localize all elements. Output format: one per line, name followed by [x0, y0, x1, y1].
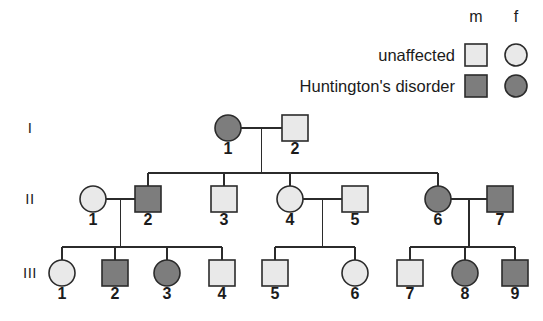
- symbol-male-unaffected: [262, 260, 288, 286]
- symbol-female-unaffected: [277, 186, 303, 212]
- generation-label-III: III: [23, 264, 37, 281]
- symbol-female-unaffected: [80, 186, 106, 212]
- legend-swatch-male-affected: [465, 75, 487, 97]
- individual-II-4[interactable]: 4: [277, 186, 303, 228]
- symbol-female-affected: [425, 186, 451, 212]
- individual-III-1[interactable]: 1: [49, 260, 75, 302]
- individual-number-II-1: 1: [89, 211, 98, 228]
- individual-number-III-1: 1: [58, 285, 67, 302]
- individual-III-5[interactable]: 5: [262, 260, 288, 302]
- symbol-male-unaffected: [282, 115, 308, 141]
- individual-number-II-4: 4: [286, 211, 295, 228]
- generation-label-I: I: [28, 119, 33, 136]
- pedigree-canvas: mfunaffectedHuntington's disorder 121234…: [0, 0, 543, 321]
- symbol-female-affected: [154, 260, 180, 286]
- symbol-male-unaffected: [211, 186, 237, 212]
- individual-III-4[interactable]: 4: [209, 260, 235, 302]
- individual-I-1[interactable]: 1: [215, 115, 241, 157]
- symbol-female-affected: [215, 115, 241, 141]
- individual-number-III-3: 3: [163, 285, 172, 302]
- individual-II-2[interactable]: 2: [135, 186, 161, 228]
- legend-header-male: m: [469, 8, 482, 25]
- symbol-female-unaffected: [342, 260, 368, 286]
- individual-number-III-9: 9: [511, 285, 520, 302]
- individual-II-7[interactable]: 7: [487, 186, 513, 228]
- individual-II-1[interactable]: 1: [80, 186, 106, 228]
- individual-number-I-1: 1: [224, 140, 233, 157]
- individual-number-III-7: 7: [406, 285, 415, 302]
- legend-label-affected: Huntington's disorder: [300, 77, 456, 95]
- individual-number-II-6: 6: [434, 211, 443, 228]
- pedigree-figure: mfunaffectedHuntington's disorder 121234…: [0, 0, 543, 321]
- legend-header-female: f: [514, 8, 519, 25]
- individual-number-II-7: 7: [496, 211, 505, 228]
- individual-II-3[interactable]: 3: [211, 186, 237, 228]
- individual-number-III-2: 2: [111, 285, 120, 302]
- individual-III-9[interactable]: 9: [502, 260, 528, 302]
- individual-II-6[interactable]: 6: [425, 186, 451, 228]
- individual-number-II-2: 2: [144, 211, 153, 228]
- generation-label-II: II: [25, 190, 34, 207]
- individual-III-8[interactable]: 8: [452, 260, 478, 302]
- symbol-female-unaffected: [49, 260, 75, 286]
- individual-number-III-8: 8: [461, 285, 470, 302]
- individual-number-II-3: 3: [220, 211, 229, 228]
- legend-swatch-male-unaffected: [465, 44, 487, 66]
- individual-number-I-2: 2: [291, 140, 300, 157]
- symbol-male-affected: [502, 260, 528, 286]
- symbol-male-affected: [135, 186, 161, 212]
- individual-III-7[interactable]: 7: [397, 260, 423, 302]
- symbol-male-unaffected: [342, 186, 368, 212]
- symbol-male-unaffected: [209, 260, 235, 286]
- symbol-male-affected: [487, 186, 513, 212]
- individual-II-5[interactable]: 5: [342, 186, 368, 228]
- individual-I-2[interactable]: 2: [282, 115, 308, 157]
- generation-labels: IIIIII: [23, 119, 37, 281]
- legend-swatch-female-affected: [505, 75, 527, 97]
- individual-III-3[interactable]: 3: [154, 260, 180, 302]
- individual-number-II-5: 5: [351, 211, 360, 228]
- individual-number-III-5: 5: [271, 285, 280, 302]
- legend-swatch-female-unaffected: [505, 44, 527, 66]
- symbol-male-unaffected: [397, 260, 423, 286]
- individual-III-6[interactable]: 6: [342, 260, 368, 302]
- legend-label-unaffected: unaffected: [378, 46, 455, 64]
- individual-number-III-6: 6: [351, 285, 360, 302]
- symbol-male-affected: [102, 260, 128, 286]
- individual-number-III-4: 4: [218, 285, 227, 302]
- individual-III-2[interactable]: 2: [102, 260, 128, 302]
- symbol-female-affected: [452, 260, 478, 286]
- legend: mfunaffectedHuntington's disorder: [300, 8, 527, 97]
